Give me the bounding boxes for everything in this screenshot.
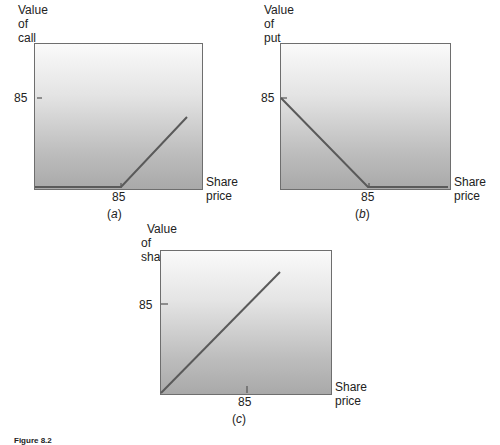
figure-label: Figure 8.2: [14, 436, 52, 445]
